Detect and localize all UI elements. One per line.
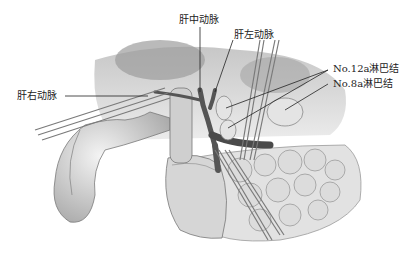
- label-left-hepatic-artery: 肝左动脉: [234, 29, 274, 41]
- label-right-hepatic-artery: 肝右动脉: [17, 90, 57, 102]
- anatomy-illustration: [0, 0, 410, 263]
- common-bile-duct: [170, 88, 192, 163]
- label-lymph-node-12a: No.12a淋巴结: [333, 63, 399, 75]
- label-lymph-node-8a: No.8a淋巴结: [333, 78, 393, 90]
- label-middle-hepatic-artery: 肝中动脉: [179, 14, 219, 26]
- gallbladder: [54, 112, 170, 222]
